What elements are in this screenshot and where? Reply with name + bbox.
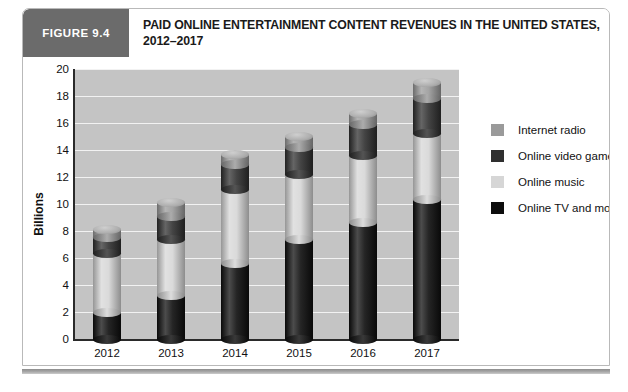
gridline	[75, 96, 459, 97]
y-axis-tick-label: 4	[63, 279, 69, 291]
bar-segment-cap	[285, 132, 313, 141]
bar-segment-foot	[285, 335, 313, 344]
bar-segment[interactable]	[221, 154, 249, 165]
bar-segment-body	[221, 263, 249, 339]
legend-label: Internet radio	[518, 124, 586, 136]
bar-segment-foot	[285, 170, 313, 179]
figure-title-line-1: PAID ONLINE ENTERTAINMENT CONTENT REVENU…	[143, 17, 600, 33]
figure-title: PAID ONLINE ENTERTAINMENT CONTENT REVENU…	[129, 9, 610, 57]
bar-segment[interactable]	[349, 114, 377, 125]
x-axis-tick-label: 2012	[94, 347, 120, 359]
figure-number-badge: FIGURE 9.4	[23, 9, 129, 57]
bar-segment-body	[349, 223, 377, 339]
bar-segment-body	[221, 189, 249, 263]
legend-item[interactable]: Internet radio	[491, 117, 610, 143]
bar-segment-body	[285, 174, 313, 239]
bar-segment-foot	[221, 259, 249, 268]
bar-segment-body	[413, 200, 441, 339]
gridline	[75, 231, 459, 232]
gridline	[75, 123, 459, 124]
bar-stack[interactable]	[157, 69, 185, 339]
bar-segment[interactable]	[413, 200, 441, 339]
bar-segment[interactable]	[413, 134, 441, 200]
bar-segment-cap	[221, 150, 249, 159]
bar-segment[interactable]	[285, 239, 313, 339]
bar-segment-foot	[349, 120, 377, 129]
bar-segment[interactable]	[349, 124, 377, 155]
bar-stack[interactable]	[413, 69, 441, 339]
bar-segment-body	[349, 155, 377, 223]
plot-area: 0246810121416182020122013201420152016201…	[73, 69, 459, 341]
figure-header: FIGURE 9.4 PAID ONLINE ENTERTAINMENT CON…	[23, 9, 609, 58]
y-axis-tick-label: 12	[56, 171, 69, 183]
y-axis-tick-label: 18	[56, 90, 69, 102]
figure-title-line-2: 2012–2017	[143, 33, 600, 49]
bar-segment[interactable]	[157, 239, 185, 296]
bar-segment-foot	[221, 335, 249, 344]
bar-segment[interactable]	[157, 296, 185, 339]
gridline	[75, 285, 459, 286]
gridline	[75, 312, 459, 313]
bar-segment[interactable]	[285, 137, 313, 148]
legend-swatch	[491, 150, 504, 162]
bar-segment[interactable]	[349, 223, 377, 339]
bar-segment-cap	[349, 109, 377, 118]
bar-segment[interactable]	[157, 203, 185, 217]
legend-swatch	[491, 176, 504, 188]
y-axis-tick-label: 2	[63, 306, 69, 318]
bar-segment-foot	[93, 335, 121, 344]
bar-segment[interactable]	[221, 189, 249, 263]
x-axis-tick-label: 2016	[350, 347, 376, 359]
bar-segment-foot	[349, 151, 377, 160]
bar-stack[interactable]	[221, 69, 249, 339]
bar-segment[interactable]	[413, 83, 441, 99]
y-axis-tick-label: 10	[56, 198, 69, 210]
bar-segment-body	[157, 239, 185, 296]
bar-segment[interactable]	[93, 254, 121, 312]
x-axis-tick-label: 2014	[222, 347, 248, 359]
gridline	[75, 258, 459, 259]
y-axis-tick-label: 14	[56, 144, 69, 156]
y-axis-title: Billions	[32, 184, 46, 244]
bar-segment-foot	[93, 308, 121, 317]
bar-segment[interactable]	[93, 230, 121, 238]
chart-legend: Internet radioOnline video gamesOnline m…	[491, 117, 610, 221]
legend-item[interactable]: Online video games	[491, 143, 610, 169]
bar-segment-body	[285, 239, 313, 339]
bar-segment-foot	[349, 335, 377, 344]
bar-stack[interactable]	[93, 69, 121, 339]
bar-segment-body	[157, 296, 185, 339]
bar-segment-foot	[285, 235, 313, 244]
bar-segment[interactable]	[221, 263, 249, 339]
bar-segment-foot	[157, 235, 185, 244]
bar-stack[interactable]	[349, 69, 377, 339]
bar-segment-foot	[285, 143, 313, 152]
x-axis-tick-label: 2015	[286, 347, 312, 359]
bar-segment[interactable]	[413, 99, 441, 134]
bar-segment-body	[413, 134, 441, 200]
y-axis-tick-label: 6	[63, 252, 69, 264]
bar-segment-cap	[413, 78, 441, 87]
y-axis-tick-label: 0	[63, 333, 69, 345]
legend-label: Online music	[518, 176, 584, 188]
gridline	[75, 177, 459, 178]
chart-area: Billions 0246810121416182020122013201420…	[23, 57, 609, 366]
gridline	[75, 204, 459, 205]
y-axis-tick-label: 20	[56, 63, 69, 75]
bar-segment-foot	[157, 212, 185, 221]
figure-bottom-rule	[22, 369, 610, 374]
legend-swatch	[491, 202, 504, 214]
legend-item[interactable]: Online music	[491, 169, 610, 195]
legend-swatch	[491, 124, 504, 136]
x-axis-tick-label: 2013	[158, 347, 184, 359]
figure-container: FIGURE 9.4 PAID ONLINE ENTERTAINMENT CON…	[22, 8, 610, 366]
bar-segment[interactable]	[285, 174, 313, 239]
bar-segment[interactable]	[349, 155, 377, 223]
bar-stack[interactable]	[285, 69, 313, 339]
legend-label: Online TV and movies	[518, 202, 610, 214]
legend-label: Online video games	[518, 150, 610, 162]
y-axis-tick-label: 8	[63, 225, 69, 237]
bar-segment-body	[93, 254, 121, 312]
legend-item[interactable]: Online TV and movies	[491, 195, 610, 221]
bar-segment-foot	[157, 335, 185, 344]
